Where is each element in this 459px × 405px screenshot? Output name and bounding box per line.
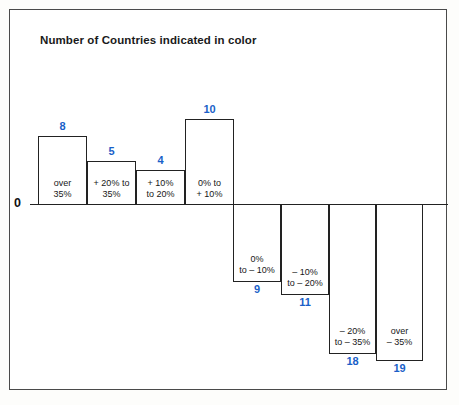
bar-category-line1: + 20% to	[94, 178, 130, 188]
bar-category-line1: – 10%	[292, 267, 318, 277]
bar-category-line2: + 10%	[197, 189, 223, 199]
bar-category-plus-20-to-35: + 20% to 35%	[86, 178, 137, 200]
bar-category-line2: – 35%	[387, 337, 413, 347]
bar-category-line1: 0% to	[198, 178, 221, 188]
bar-category-over-35: over 35%	[38, 178, 87, 200]
bar-category-line1: over	[391, 326, 409, 336]
bar-value-plus-10-to-20: 4	[136, 154, 185, 166]
bar-value-minus-20-to-minus-35: 18	[329, 355, 376, 367]
bar-category-line2: to 20%	[146, 189, 174, 199]
bar-category-line1: over	[54, 178, 72, 188]
bar-chart-plot: 0 8 over 35% 5 + 20% to 35% 4 + 10% to 2…	[0, 0, 459, 405]
bar-category-line1: 0%	[250, 254, 263, 264]
bar-category-line2: to – 35%	[335, 337, 371, 347]
bar-category-line1: + 10%	[148, 178, 174, 188]
bar-category-over-minus-35: over – 35%	[374, 326, 425, 348]
bar-value-over-minus-35: 19	[376, 362, 423, 374]
axis-zero-label: 0	[14, 196, 21, 210]
bar-category-line2: to – 10%	[239, 265, 275, 275]
bar-category-line1: – 20%	[340, 326, 366, 336]
bar-category-zero-to-minus-10: 0% to – 10%	[230, 254, 284, 276]
bar-value-minus-10-to-minus-20: 11	[281, 296, 329, 308]
bar-category-line2: 35%	[102, 189, 120, 199]
bar-category-plus-10-to-20: + 10% to 20%	[135, 178, 186, 200]
bar-value-zero-to-minus-10: 9	[233, 283, 281, 295]
bar-category-line2: to – 20%	[287, 278, 323, 288]
bar-value-zero-to-plus-10: 10	[185, 103, 234, 115]
bar-category-line2: 35%	[53, 189, 71, 199]
bar-category-minus-10-to-minus-20: – 10% to – 20%	[278, 267, 332, 289]
bar-category-minus-20-to-minus-35: – 20% to – 35%	[325, 326, 380, 348]
bar-value-over-35: 8	[38, 120, 87, 132]
chart-screenshot: Number of Countries indicated in color 0…	[0, 0, 459, 405]
bar-value-plus-20-to-35: 5	[87, 145, 136, 157]
bar-category-zero-to-plus-10: 0% to + 10%	[184, 178, 235, 200]
